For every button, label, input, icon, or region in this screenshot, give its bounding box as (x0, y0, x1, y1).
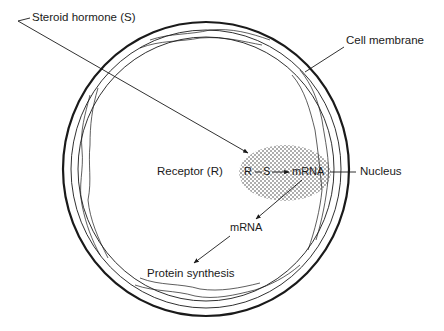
cell-membrane-label: Cell membrane (346, 35, 424, 47)
receptor-label: Receptor (R) (157, 166, 223, 178)
complex-s-label: S (263, 166, 270, 177)
nucleus-label: Nucleus (360, 166, 402, 178)
cytoplasmic-mrna-label: mRNA (230, 222, 262, 233)
mrna-to-protein-arrow (194, 236, 230, 263)
steroid-hormone-label: Steroid hormone (S) (32, 12, 136, 24)
hormone-path-arrow (18, 21, 248, 153)
nuclear-mrna-label: mRNA (292, 166, 324, 177)
membrane-leader-line (305, 47, 344, 72)
complex-r-label: R (244, 166, 252, 177)
hormone-label-tick (18, 18, 30, 21)
protein-synthesis-label: Protein synthesis (147, 268, 235, 280)
